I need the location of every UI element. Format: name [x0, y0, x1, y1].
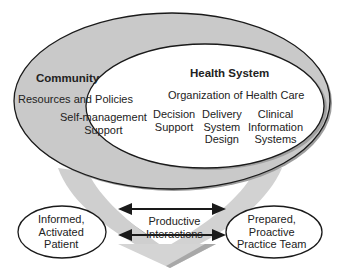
health-system-title: Health System [190, 67, 269, 80]
clinical-information-systems: Clinical Information Systems [248, 108, 303, 146]
decision-support: Decision Support [153, 108, 195, 133]
productive-interactions-label: Productive Interactions [146, 215, 203, 240]
self-management-support: Self-management Support [60, 111, 147, 136]
community-title: Community [36, 72, 99, 85]
community-item-resources-policies: Resources and Policies [18, 93, 133, 106]
patient-label: Informed, Activated Patient [38, 213, 84, 251]
health-system-ellipse [86, 44, 327, 170]
delivery-system-design: Delivery System Design [202, 108, 242, 146]
team-label: Prepared, Proactive Practice Team [237, 213, 307, 251]
health-system-subtitle: Organization of Health Care [168, 89, 304, 102]
